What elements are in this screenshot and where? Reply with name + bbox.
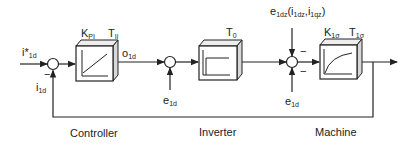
control-loop-diagram: i*1d − i1d KPI TIi o1d e1d T0 − − e1	[0, 0, 416, 146]
inverter-disturbance-label: e1d	[163, 94, 177, 107]
section-label-machine: Machine	[315, 126, 357, 138]
controller-output-label: o1d	[122, 47, 136, 60]
section-label-inverter: Inverter	[199, 126, 237, 138]
machine-bottom-disturbance-label: e1d	[285, 95, 299, 108]
summing-junction-inverter	[165, 57, 176, 68]
machine-top-disturbance-label: e1dz(i1dz,i1qz)	[270, 5, 325, 19]
controller-time-label: TIi	[108, 27, 119, 40]
inverter-time-label: T0	[226, 26, 237, 39]
section-label-controller: Controller	[70, 127, 118, 139]
inverter-block	[199, 40, 242, 80]
machine-time-label: T1σ	[349, 26, 365, 39]
machine-block	[320, 39, 362, 79]
machine-gain-label: K1σ	[324, 26, 340, 39]
summing-junction-machine	[287, 57, 298, 68]
controller-gain-label: KPI	[81, 27, 95, 40]
feedback-sign-minus: −	[44, 68, 50, 80]
controller-block	[76, 40, 118, 81]
feedback-signal-label: i1d	[36, 81, 46, 94]
reference-signal-label: i*1d	[22, 46, 37, 59]
machine-top-sign-minus: −	[300, 45, 306, 57]
machine-bottom-sign-minus: −	[300, 65, 306, 77]
